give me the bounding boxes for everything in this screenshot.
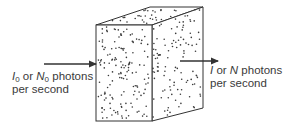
incident-label-line2: per second bbox=[12, 83, 93, 96]
transmitted-units: photons bbox=[238, 64, 282, 76]
transmitted-beam-label: I or N photons per second bbox=[210, 64, 282, 90]
incident-symbol-n: N bbox=[36, 70, 44, 82]
incident-beam-label: I0 or N0 photons per second bbox=[12, 70, 93, 96]
incident-label-line1: I0 or N0 photons bbox=[12, 70, 93, 83]
incident-units: photons bbox=[49, 70, 93, 82]
transmitted-label-line1: I or N photons bbox=[210, 64, 282, 77]
medium-block bbox=[96, 7, 203, 121]
transmitted-label-line2: per second bbox=[210, 77, 282, 90]
block-side-face bbox=[152, 7, 203, 121]
block-front-face bbox=[96, 25, 152, 121]
transmitted-symbol-n: N bbox=[230, 64, 238, 76]
transmitted-connector: or bbox=[213, 64, 230, 76]
incident-connector: or bbox=[20, 70, 37, 82]
